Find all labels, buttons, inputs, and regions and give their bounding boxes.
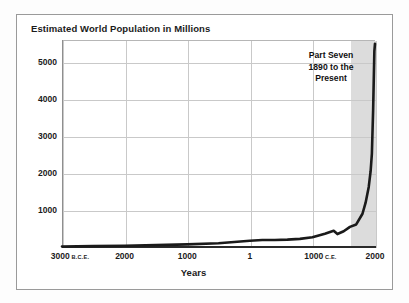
annotation-line-2: 1890 to the: [292, 62, 370, 74]
y-tick-label: 5000: [38, 57, 57, 67]
x-tick-label: 1000 C.E.: [304, 251, 336, 261]
x-tick-label: 1000: [178, 251, 197, 261]
x-axis-label: Years: [0, 267, 409, 278]
x-tick-label: 2000: [366, 251, 385, 261]
x-tick-label: 1: [247, 251, 252, 261]
annotation-line-1: Part Seven: [292, 50, 370, 62]
x-axis-tick-labels: 3000 B.C.E.2000100011000 C.E.2000: [62, 251, 375, 265]
part-seven-annotation: Part Seven 1890 to the Present: [292, 50, 370, 85]
x-tick-era-suffix: B.C.E.: [70, 254, 89, 260]
x-tick-era-suffix: C.E.: [323, 254, 336, 260]
y-tick-label: 4000: [38, 94, 57, 104]
y-tick-label: 2000: [38, 168, 57, 178]
chart-title: Estimated World Population in Millions: [31, 23, 210, 34]
annotation-line-3: Present: [292, 73, 370, 85]
gridline-vertical: [376, 41, 377, 248]
x-axis-label-text: Years: [181, 267, 206, 278]
x-tick-label: 2000: [115, 251, 134, 261]
y-tick-label: 1000: [38, 205, 57, 215]
y-tick-label: 3000: [38, 131, 57, 141]
y-axis-tick-labels: 10002000300040005000: [18, 40, 57, 247]
x-tick-label: 3000 B.C.E.: [51, 251, 89, 261]
population-chart-figure: Estimated World Population in Millions 1…: [0, 0, 409, 303]
